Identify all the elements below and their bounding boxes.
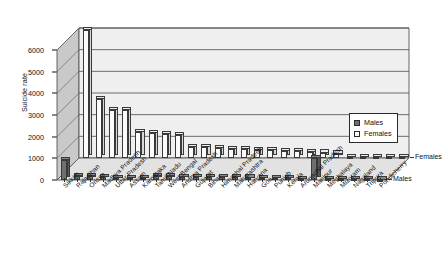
x-tick-mark	[64, 178, 65, 182]
plot-area	[57, 18, 412, 180]
y-tick-label: 5000	[28, 67, 44, 76]
y-tick-label: 3000	[28, 111, 44, 120]
bar-face	[373, 157, 379, 159]
y-tick-label: 6000	[28, 46, 44, 55]
x-tick-mark	[354, 178, 355, 182]
x-tick-mark	[328, 178, 329, 182]
bar-female-20	[347, 154, 356, 159]
x-tick-mark	[288, 178, 289, 182]
legend-swatch-males	[354, 120, 360, 126]
x-tick-mark	[301, 178, 302, 182]
bar-side	[128, 107, 131, 155]
bar-face	[149, 133, 155, 158]
bar-side	[168, 131, 171, 155]
y-tick-label: 0	[40, 176, 44, 185]
bar-face	[175, 135, 181, 158]
bar-female-15	[281, 148, 290, 158]
legend-item-males: Males	[354, 117, 392, 128]
bar-female-11	[228, 146, 237, 158]
bar-face	[347, 157, 353, 159]
bar-face	[360, 157, 366, 159]
x-tick-mark	[341, 178, 342, 182]
x-tick-mark	[143, 178, 144, 182]
bar-face	[228, 149, 234, 158]
bar-side	[141, 129, 144, 155]
bar-female-2	[109, 107, 118, 158]
x-tick-mark	[367, 178, 368, 182]
x-tick-mark	[235, 178, 236, 182]
depth-axis-tick	[388, 179, 392, 180]
bar-face	[386, 157, 392, 159]
bar-face	[281, 151, 287, 158]
x-tick-mark	[130, 178, 131, 182]
x-tick-mark	[156, 178, 157, 182]
bar-female-7	[175, 132, 184, 158]
bar-female-21	[360, 154, 369, 158]
x-tick-mark	[380, 178, 381, 182]
y-tick-label: 1000	[28, 154, 44, 163]
legend-item-females: Females	[354, 128, 392, 139]
bar-face	[267, 150, 273, 158]
depth-axis-label-males: Males	[393, 175, 412, 182]
legend-label: Males	[364, 118, 383, 127]
x-tick-mark	[103, 178, 104, 182]
x-tick-mark	[222, 178, 223, 182]
bar-female-1	[96, 96, 105, 158]
bar-side	[181, 132, 184, 155]
x-tick-mark	[248, 178, 249, 182]
x-tick-mark	[182, 178, 183, 182]
bar-face	[294, 151, 300, 158]
x-tick-mark	[275, 178, 276, 182]
depth-axis-label-females: Females	[415, 153, 442, 160]
bar-side	[89, 27, 92, 155]
x-tick-mark	[314, 178, 315, 182]
depth-axis-tick	[410, 157, 414, 158]
x-tick-mark	[116, 178, 117, 182]
bar-female-5	[149, 130, 158, 158]
x-tick-mark	[262, 178, 263, 182]
y-axis: 0100020003000400050006000	[0, 0, 52, 274]
bar-female-6	[162, 131, 171, 158]
legend-swatch-females	[354, 131, 360, 137]
bar-side	[115, 107, 118, 155]
x-tick-mark	[169, 178, 170, 182]
x-tick-mark	[209, 178, 210, 182]
legend-label: Females	[364, 129, 392, 138]
bar-face	[83, 30, 89, 158]
bar-female-23	[386, 154, 395, 158]
x-tick-mark	[90, 178, 91, 182]
x-tick-mark	[196, 178, 197, 182]
bar-female-16	[294, 148, 303, 158]
bar-side	[155, 130, 158, 155]
x-tick-mark	[77, 178, 78, 182]
bar-face	[96, 99, 102, 158]
bar-face	[122, 110, 128, 158]
bar-female-0	[83, 27, 92, 158]
bar-female-3	[122, 107, 131, 158]
bar-face	[162, 134, 168, 158]
bar-female-22	[373, 154, 382, 158]
y-tick-label: 4000	[28, 89, 44, 98]
bar-face	[109, 110, 115, 158]
y-tick-label: 2000	[28, 132, 44, 141]
bar-female-24	[399, 154, 408, 158]
bar-side	[102, 96, 105, 155]
bar-female-14	[267, 147, 276, 158]
legend: MalesFemales	[349, 113, 398, 143]
